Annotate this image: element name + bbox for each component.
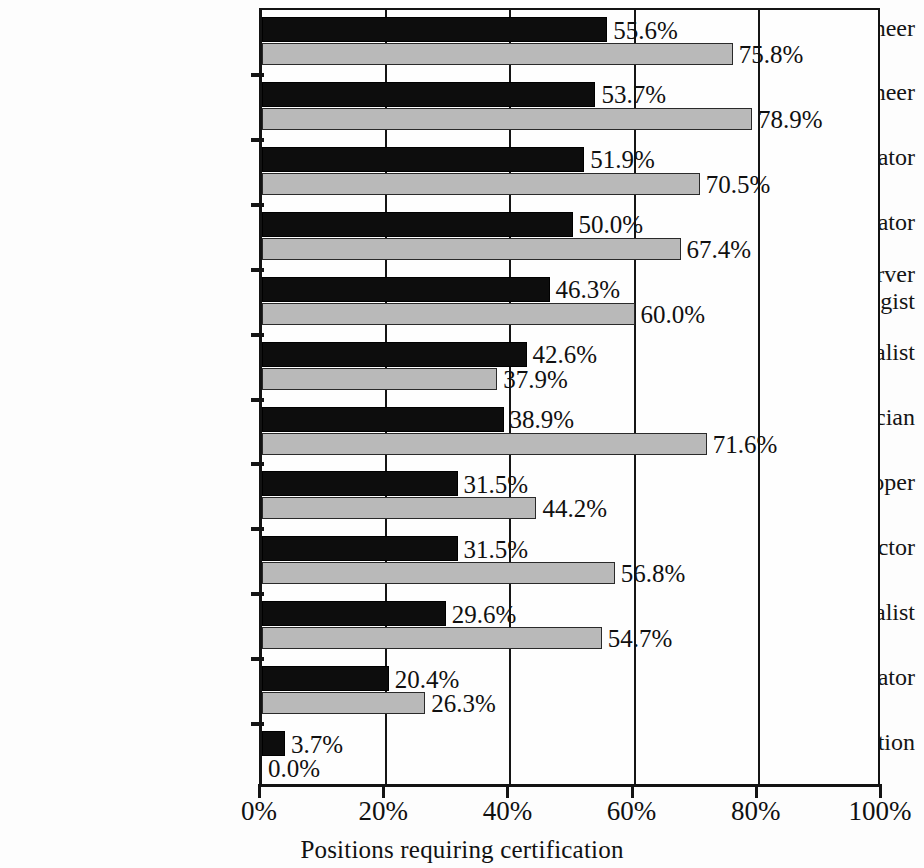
bar-group: 42.6%37.9% xyxy=(262,335,878,400)
bar-series-2 xyxy=(262,108,752,130)
bar-value-series-2: 0.0% xyxy=(268,756,320,781)
x-axis-tick-label: 100% xyxy=(849,798,912,825)
bar-group: 50.0%67.4% xyxy=(262,205,878,270)
chart-page: System engineerNetwork engineerNetwork a… xyxy=(0,0,924,868)
bar-series-1 xyxy=(262,407,504,432)
bar-value-series-1: 42.6% xyxy=(533,342,598,367)
x-axis-title: Positions requiring certification xyxy=(0,836,924,864)
x-axis-tick-label: 80% xyxy=(731,798,781,825)
bar-group: 46.3%60.0% xyxy=(262,270,878,335)
bar-value-series-2: 44.2% xyxy=(542,496,607,521)
bar-series-1 xyxy=(262,342,527,367)
bar-value-series-2: 54.7% xyxy=(608,626,673,651)
bar-group: 55.6%75.8% xyxy=(262,10,878,75)
bar-group: 53.7%78.9% xyxy=(262,75,878,140)
bar-value-series-2: 56.8% xyxy=(621,561,686,586)
bar-series-2 xyxy=(262,627,602,649)
bar-series-1 xyxy=(262,666,389,691)
bar-series-2 xyxy=(262,173,700,195)
bar-series-1 xyxy=(262,17,607,42)
bar-series-2 xyxy=(262,692,425,714)
bar-series-2 xyxy=(262,433,707,455)
bar-value-series-2: 71.6% xyxy=(713,432,778,457)
bar-series-2 xyxy=(262,303,635,325)
bar-group: 29.6%54.7% xyxy=(262,594,878,659)
bar-value-series-1: 31.5% xyxy=(464,537,529,562)
bar-series-1 xyxy=(262,277,550,302)
bar-value-series-1: 53.7% xyxy=(601,82,666,107)
bar-value-series-2: 37.9% xyxy=(503,367,568,392)
bar-value-series-1: 55.6% xyxy=(613,18,678,43)
bar-series-1 xyxy=(262,731,285,756)
bar-series-2 xyxy=(262,497,536,519)
bar-value-series-1: 20.4% xyxy=(395,667,460,692)
bar-series-1 xyxy=(262,82,595,107)
bar-series-2 xyxy=(262,562,615,584)
bar-value-series-1: 50.0% xyxy=(579,212,644,237)
bar-series-1 xyxy=(262,471,458,496)
bar-series-2 xyxy=(262,368,497,390)
bar-value-series-1: 46.3% xyxy=(556,277,621,302)
bar-value-series-1: 38.9% xyxy=(510,407,575,432)
bar-group: 20.4%26.3% xyxy=(262,659,878,724)
bar-value-series-1: 51.9% xyxy=(590,147,655,172)
bar-value-series-2: 70.5% xyxy=(706,172,771,197)
bar-group: 51.9%70.5% xyxy=(262,140,878,205)
bar-series-1 xyxy=(262,212,573,237)
bar-group: 31.5%44.2% xyxy=(262,464,878,529)
bar-group: 31.5%56.8% xyxy=(262,529,878,594)
bar-value-series-2: 26.3% xyxy=(431,691,496,716)
bar-series-1 xyxy=(262,601,446,626)
bar-value-series-2: 75.8% xyxy=(739,42,804,67)
bar-value-series-2: 78.9% xyxy=(758,107,823,132)
bar-series-2 xyxy=(262,238,681,260)
plot-area: 55.6%75.8%53.7%78.9%51.9%70.5%50.0%67.4%… xyxy=(259,8,880,787)
x-axis-tick-label: 0% xyxy=(241,798,277,825)
x-axis-tick-label: 60% xyxy=(607,798,657,825)
bar-series-1 xyxy=(262,536,458,561)
bar-value-series-1: 29.6% xyxy=(452,602,517,627)
bar-value-series-2: 60.0% xyxy=(641,302,706,327)
bar-value-series-1: 31.5% xyxy=(464,472,529,497)
bar-series-1 xyxy=(262,147,584,172)
x-axis: 0%20%40%60%80%100% xyxy=(259,784,880,802)
x-axis-tick-label: 40% xyxy=(483,798,533,825)
x-axis-tick-label: 20% xyxy=(358,798,408,825)
bar-series-2 xyxy=(262,43,733,65)
bar-value-series-2: 67.4% xyxy=(687,237,752,262)
bar-group: 3.7%0.0% xyxy=(262,724,878,789)
bar-value-series-1: 3.7% xyxy=(291,732,343,757)
bar-group: 38.9%71.6% xyxy=(262,400,878,465)
